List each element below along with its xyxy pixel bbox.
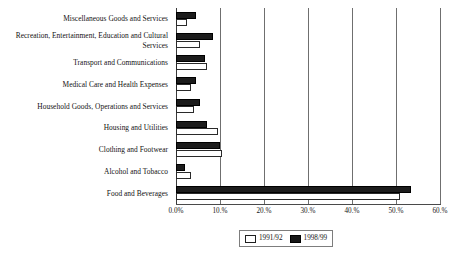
bar	[176, 142, 220, 149]
legend-label: 1991/92	[259, 234, 283, 243]
bar	[176, 150, 222, 157]
bar	[176, 55, 205, 62]
value-axis-tick: 40.%	[332, 206, 372, 216]
category-label: Food and Beverages	[0, 189, 168, 198]
legend-entry: 1998/99	[290, 234, 328, 243]
category-label: Alcohol and Tobacco	[0, 167, 168, 176]
bar	[176, 128, 218, 135]
bar	[176, 19, 187, 26]
value-axis-tick-labels: 0.0%10.%20.%30.%40.%50.%60.%	[0, 206, 470, 220]
bar	[176, 63, 207, 70]
value-axis-tick: 60.%	[420, 206, 460, 216]
value-axis-tick: 10.%	[200, 206, 240, 216]
value-axis-tick: 50.%	[376, 206, 416, 216]
category-label: Miscellaneous Goods and Services	[0, 14, 168, 23]
gridline-40pct	[352, 8, 353, 204]
gridline-30pct	[308, 8, 309, 204]
plot-area	[176, 8, 440, 204]
bar	[176, 193, 400, 200]
bar	[176, 99, 200, 106]
bar	[176, 84, 191, 91]
gridline-20pct	[264, 8, 265, 204]
bar	[176, 186, 411, 193]
gridline-60pct	[440, 8, 441, 204]
category-label: Household Goods, Operations and Services	[0, 102, 168, 111]
bar	[176, 12, 196, 19]
category-axis-line	[176, 204, 441, 205]
bar	[176, 33, 213, 40]
category-axis-labels: Miscellaneous Goods and ServicesRecreati…	[0, 8, 172, 204]
category-label: Recreation, Entertainment, Education and…	[0, 31, 168, 50]
bar	[176, 121, 207, 128]
bar	[176, 77, 196, 84]
category-label: Transport and Communications	[0, 58, 168, 67]
value-axis-tick: 0.0%	[156, 206, 196, 216]
bar	[176, 172, 191, 179]
gridline-50pct	[396, 8, 397, 204]
bar	[176, 164, 185, 171]
legend-swatch-icon	[290, 235, 301, 243]
gridline-10pct	[220, 8, 221, 204]
legend-entry: 1991/92	[245, 234, 283, 243]
category-label: Medical Care and Health Expenses	[0, 80, 168, 89]
bar	[176, 106, 194, 113]
legend-swatch-icon	[245, 235, 256, 243]
category-label: Housing and Utilities	[0, 123, 168, 132]
horizontal-bar-chart: Miscellaneous Goods and ServicesRecreati…	[0, 0, 470, 257]
value-axis-tick: 30.%	[288, 206, 328, 216]
bar	[176, 41, 200, 48]
category-label: Clothing and Footwear	[0, 145, 168, 154]
chart-legend: 1991/921998/99	[239, 230, 333, 247]
value-axis-tick: 20.%	[244, 206, 284, 216]
legend-label: 1998/99	[304, 234, 328, 243]
